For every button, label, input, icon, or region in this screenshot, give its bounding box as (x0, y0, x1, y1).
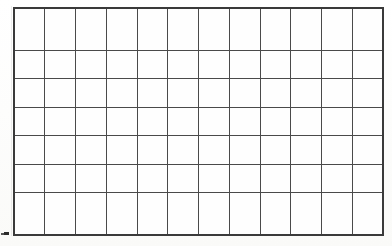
grid-cell-empty (291, 79, 322, 107)
grid-cell-empty (229, 192, 260, 235)
grid-cell-empty (106, 164, 137, 192)
grid-cell-empty (168, 164, 199, 192)
grid-cell-empty (14, 164, 45, 192)
grid-cell-empty (45, 51, 76, 79)
grid-cell-empty (322, 8, 353, 51)
grid-cell-empty (137, 192, 168, 235)
grid-cell-empty (260, 8, 291, 51)
grid-cell-empty (168, 8, 199, 51)
grid-cell-empty (352, 136, 383, 164)
grid-cell-empty (199, 192, 230, 235)
grid-cell-shaded (14, 8, 45, 51)
grid-cell-empty (137, 164, 168, 192)
grid-cell-shaded (76, 79, 107, 107)
grid-cell-empty (199, 136, 230, 164)
grid-cell-empty (229, 164, 260, 192)
grid-cell-empty (260, 107, 291, 135)
grid-cell-shaded (14, 192, 45, 235)
grid-cell-empty (291, 107, 322, 135)
grid-cell-empty (137, 107, 168, 135)
grid-cell-empty (45, 164, 76, 192)
grid-cell-empty (260, 79, 291, 107)
grid-row (14, 51, 383, 79)
grid-cell-shaded (14, 79, 45, 107)
grid-cell-empty (168, 107, 199, 135)
grid-cell-empty (352, 79, 383, 107)
grid-cell-empty (199, 79, 230, 107)
scan-edge-artifact (11, 6, 12, 236)
grid-body (14, 8, 383, 235)
grid-cell-empty (76, 107, 107, 135)
grid-cell-empty (137, 51, 168, 79)
grid-cell-empty (106, 107, 137, 135)
grid-cell-empty (260, 51, 291, 79)
grid-cell-shaded (76, 192, 107, 235)
grid-cell-empty (76, 164, 107, 192)
grid-cell-empty (352, 51, 383, 79)
grid-cell-empty (229, 107, 260, 135)
grid-cell-empty (322, 136, 353, 164)
grid-cell-empty (291, 51, 322, 79)
grid-cell-empty (260, 136, 291, 164)
grid-cell-shaded (45, 79, 76, 107)
grid-row (14, 8, 383, 51)
grid-cell-empty (291, 192, 322, 235)
grid-cell-empty (291, 8, 322, 51)
grid-cell-shaded (76, 136, 107, 164)
grid-cell-empty (229, 79, 260, 107)
grid-cell-empty (352, 8, 383, 51)
grid-cell-empty (199, 8, 230, 51)
grid-cell-empty (352, 107, 383, 135)
grid-table (13, 7, 384, 236)
grid-cell-empty (291, 136, 322, 164)
grid-cell-empty (322, 51, 353, 79)
grid-cell-empty (76, 51, 107, 79)
scanner-speck-icon (4, 232, 9, 235)
grid-row (14, 79, 383, 107)
grid-cell-empty (229, 8, 260, 51)
grid-cell-empty (229, 51, 260, 79)
grid-cell-empty (229, 136, 260, 164)
grid-cell-empty (199, 164, 230, 192)
grid-cell-empty (14, 107, 45, 135)
grid-cell-shaded (14, 136, 45, 164)
grid-cell-empty (199, 51, 230, 79)
grid-cell-empty (291, 164, 322, 192)
grid-row (14, 192, 383, 235)
grid-cell-shaded (45, 192, 76, 235)
grid-cell-empty (106, 51, 137, 79)
grid-row (14, 107, 383, 135)
grid-cell-empty (168, 136, 199, 164)
grid-cell-shaded (45, 136, 76, 164)
grid-cell-shaded (76, 8, 107, 51)
grid-cell-empty (260, 164, 291, 192)
grid-row (14, 136, 383, 164)
figure-canvas (0, 0, 392, 246)
grid-cell-empty (168, 79, 199, 107)
grid-cell-empty (137, 8, 168, 51)
grid-cell-empty (199, 107, 230, 135)
grid-cell-shaded (45, 8, 76, 51)
grid-row (14, 164, 383, 192)
scanner-speck-secondary-icon (1, 233, 4, 235)
grid-cell-empty (106, 192, 137, 235)
grid-cell-empty (106, 8, 137, 51)
grid-cell-empty (137, 136, 168, 164)
grid-area-model (13, 7, 384, 236)
grid-cell-empty (352, 164, 383, 192)
grid-cell-empty (322, 107, 353, 135)
grid-cell-empty (260, 192, 291, 235)
grid-cell-empty (106, 136, 137, 164)
grid-cell-empty (168, 192, 199, 235)
grid-cell-empty (106, 79, 137, 107)
grid-cell-empty (168, 51, 199, 79)
grid-cell-empty (137, 79, 168, 107)
grid-cell-empty (352, 192, 383, 235)
grid-cell-empty (322, 164, 353, 192)
grid-cell-empty (322, 192, 353, 235)
grid-cell-empty (14, 51, 45, 79)
grid-cell-empty (45, 107, 76, 135)
grid-cell-empty (322, 79, 353, 107)
